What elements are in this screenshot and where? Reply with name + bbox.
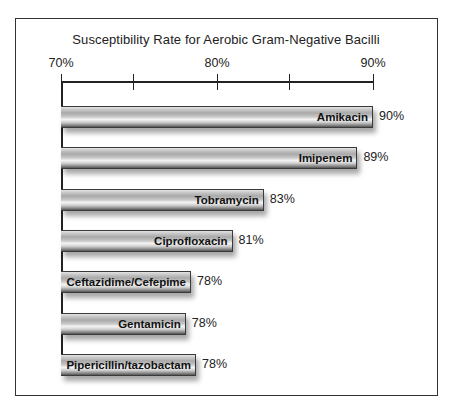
value-label: 78%	[197, 274, 222, 288]
value-label: 81%	[239, 233, 264, 247]
tick-75	[133, 74, 135, 90]
bar-label: Ceftazidime/Cefepime	[66, 276, 190, 288]
bar-tobramycin: Tobramycin	[61, 189, 264, 211]
value-label: 78%	[192, 316, 217, 330]
tick-80	[217, 74, 219, 90]
bar-pipericillin-tazobactam: Pipericillin/tazobactam	[61, 354, 196, 376]
bar-ciprofloxacin: Ciprofloxacin	[61, 230, 233, 252]
tick-90	[373, 74, 375, 90]
tick-label-70: 70%	[48, 56, 73, 70]
bar-label: Pipericillin/tazobactam	[66, 359, 195, 371]
bar-label: Imipenem	[299, 152, 357, 164]
bar-gentamicin: Gentamicin	[61, 313, 186, 335]
value-label: 89%	[363, 150, 388, 164]
value-label: 78%	[202, 357, 227, 371]
bar-label: Amikacin	[317, 111, 372, 123]
bar-label: Gentamicin	[118, 318, 185, 330]
tick-label-80: 80%	[204, 56, 229, 70]
value-label: 90%	[379, 109, 404, 123]
bar-label: Ciprofloxacin	[154, 235, 231, 247]
tick-85	[289, 74, 291, 90]
tick-label-90: 90%	[360, 56, 385, 70]
bar-ceftazidime-cefepime: Ceftazidime/Cefepime	[61, 271, 191, 293]
bar-imipenem: Imipenem	[61, 147, 357, 169]
bar-amikacin: Amikacin	[61, 106, 373, 128]
chart-title: Susceptibility Rate for Aerobic Gram-Neg…	[0, 32, 452, 47]
bar-label: Tobramycin	[194, 194, 262, 206]
value-label: 83%	[270, 192, 295, 206]
